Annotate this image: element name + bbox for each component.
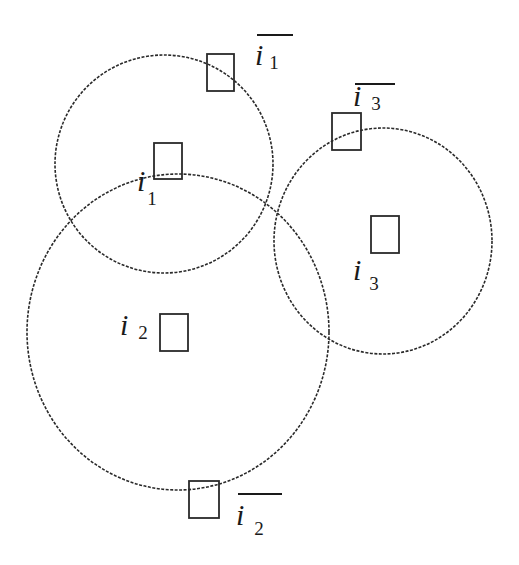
- label-i1: i1: [137, 164, 157, 198]
- label-i2-bar: i2: [236, 498, 264, 532]
- label-var: i: [353, 253, 361, 286]
- label-i1-bar: i1: [255, 38, 279, 72]
- item-i2-square: [160, 314, 188, 351]
- circle-3: [274, 128, 492, 354]
- label-var: i: [255, 38, 263, 71]
- label-subscript: 1: [147, 188, 157, 209]
- label-i2: i2: [120, 308, 148, 342]
- label-subscript: 1: [269, 52, 279, 73]
- item-i3-square: [371, 216, 399, 253]
- item-i1-bar-square: [207, 54, 234, 91]
- circle-1: [55, 55, 273, 273]
- label-subscript: 3: [371, 93, 381, 114]
- label-subscript: 2: [254, 518, 264, 539]
- label-subscript: 2: [138, 322, 148, 343]
- overline: [355, 83, 395, 85]
- label-var: i: [120, 308, 128, 341]
- circle-2: [27, 174, 329, 490]
- label-i3: i3: [353, 253, 379, 287]
- dashed-circles: [27, 55, 492, 490]
- label-subscript: 3: [369, 273, 379, 294]
- label-i3-bar: i3: [353, 79, 381, 113]
- item-i2-bar-square: [189, 481, 219, 518]
- overline: [238, 493, 282, 495]
- label-var: i: [236, 498, 244, 531]
- overline: [257, 34, 293, 36]
- venn-diagram: [0, 0, 519, 565]
- label-var: i: [137, 164, 145, 197]
